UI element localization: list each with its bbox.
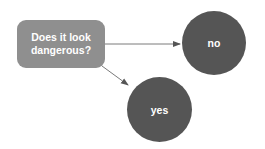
edge-to-yes [102, 66, 128, 85]
decision-label-line1: Does it look [31, 31, 91, 44]
flowchart-canvas: Does it look dangerous? no yes [0, 0, 265, 149]
outcome-label-no: no [208, 37, 221, 49]
decision-node: Does it look dangerous? [17, 20, 105, 68]
outcome-node-yes: yes [127, 77, 192, 142]
decision-label-line2: dangerous? [31, 44, 91, 57]
outcome-node-no: no [182, 11, 246, 75]
outcome-label-yes: yes [151, 104, 169, 116]
